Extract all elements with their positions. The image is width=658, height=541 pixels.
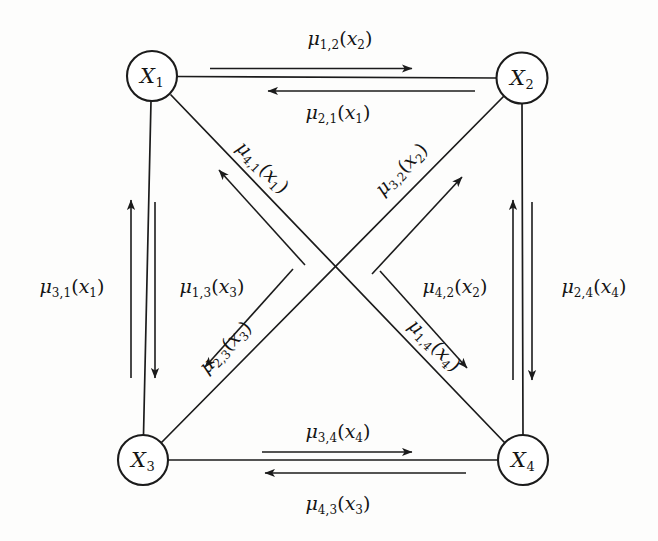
paren-close: ) xyxy=(480,275,487,297)
mu-subscript: 4,2 xyxy=(435,286,454,300)
node-label-x4-base: X xyxy=(511,448,526,472)
paren-close: ) xyxy=(363,101,370,123)
arg-subscript: 1 xyxy=(89,286,97,300)
arg-subscript: 4 xyxy=(611,286,619,300)
diagram-canvas xyxy=(0,0,658,541)
node-label-x3-base: X xyxy=(131,448,146,472)
msg-label-mu-1-3: μ1,3(x3) xyxy=(179,277,244,299)
msg-label-mu-3-1: μ3,1(x1) xyxy=(39,277,104,299)
arg-subscript: 3 xyxy=(229,286,237,300)
mu-glyph: μ xyxy=(305,492,317,514)
paren-close: ) xyxy=(363,420,370,442)
node-label-x4-sub: 4 xyxy=(527,459,535,474)
paren-close: ) xyxy=(97,275,104,297)
node-label-x2-sub: 2 xyxy=(526,77,534,92)
node-label-x4: X4 xyxy=(511,448,535,474)
paren-close: ) xyxy=(237,275,244,297)
msg-label-mu-1-2: μ1,2(x2) xyxy=(307,29,372,51)
mu-glyph: μ xyxy=(422,275,434,297)
msg-label-mu-4-3: μ4,3(x3) xyxy=(305,494,370,516)
edge-x2-x4 xyxy=(522,103,523,435)
arg-var: x xyxy=(462,275,473,297)
mu-glyph: μ xyxy=(561,275,573,297)
message-passing-diagram: X1 X2 X3 X4 μ1,2(x2) μ2,1(x1) μ3,1(x1) μ… xyxy=(0,0,658,541)
arg-subscript: 3 xyxy=(355,503,363,517)
paren-close: ) xyxy=(619,275,626,297)
mu-subscript: 4,3 xyxy=(318,503,337,517)
node-label-x2-base: X xyxy=(510,66,525,90)
mu-glyph: μ xyxy=(305,101,317,123)
mu-glyph: μ xyxy=(307,27,319,49)
mu-glyph: μ xyxy=(305,420,317,442)
msg-label-mu-2-1: μ2,1(x1) xyxy=(305,103,370,125)
arg-var: x xyxy=(345,492,356,514)
mu-glyph: μ xyxy=(179,275,191,297)
arg-var: x xyxy=(601,275,612,297)
arg-var: x xyxy=(345,101,356,123)
arg-var: x xyxy=(345,420,356,442)
mu-subscript: 2,4 xyxy=(574,286,593,300)
msg-label-mu-2-4: μ2,4(x4) xyxy=(561,277,626,299)
edge-x1-x4 xyxy=(171,95,505,443)
mu-glyph: μ xyxy=(39,275,51,297)
node-label-x2: X2 xyxy=(510,66,534,92)
arg-var: x xyxy=(219,275,230,297)
node-label-x1-sub: 1 xyxy=(156,75,164,90)
graph-edges xyxy=(144,77,524,461)
edge-x1-x3 xyxy=(144,101,152,435)
paren-close: ) xyxy=(363,492,370,514)
node-label-x1: X1 xyxy=(140,64,164,90)
mu-subscript: 1,2 xyxy=(320,38,339,52)
arg-var: x xyxy=(347,27,358,49)
node-label-x1-base: X xyxy=(140,64,155,88)
arg-subscript: 1 xyxy=(355,112,363,126)
mu-subscript: 3,1 xyxy=(52,286,71,300)
msg-label-mu-4-2: μ4,2(x2) xyxy=(422,277,487,299)
mu-subscript: 1,3 xyxy=(192,286,211,300)
edge-x1-x2 xyxy=(177,77,497,79)
node-label-x3: X3 xyxy=(131,448,155,474)
arg-var: x xyxy=(79,275,90,297)
msg-label-mu-3-4: μ3,4(x4) xyxy=(305,422,370,444)
node-label-x3-sub: 3 xyxy=(147,459,155,474)
paren-close: ) xyxy=(365,27,372,49)
arg-subscript: 2 xyxy=(357,38,365,52)
arg-subscript: 2 xyxy=(472,286,480,300)
edge-x2-x3 xyxy=(161,96,504,443)
mu-subscript: 2,1 xyxy=(318,112,337,126)
arg-subscript: 4 xyxy=(355,431,363,445)
mu-subscript: 3,4 xyxy=(318,431,337,445)
